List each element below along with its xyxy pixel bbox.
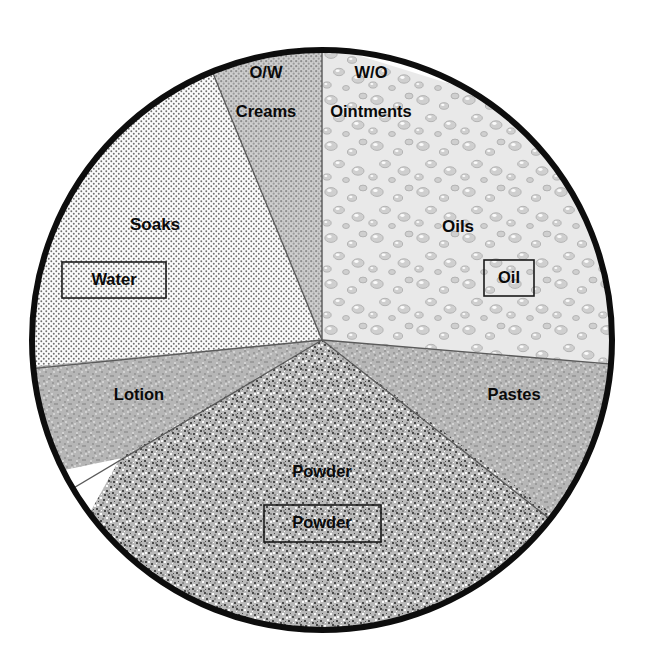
label-oils: Oils <box>442 217 474 236</box>
sector-fills <box>16 20 640 640</box>
powder-label-text: Powder <box>292 513 352 531</box>
label-powder: Powder <box>292 462 352 480</box>
wheel-svg: O/W Creams W/O Ointments Soaks Oils Loti… <box>0 0 646 669</box>
label-creams: Creams <box>236 102 297 120</box>
label-soaks: Soaks <box>130 215 180 234</box>
oil-label-text: Oil <box>498 268 520 286</box>
label-pastes: Pastes <box>487 385 540 403</box>
label-lotion: Lotion <box>114 385 164 403</box>
label-ointments: Ointments <box>330 102 412 120</box>
vehicle-wheel-diagram: O/W Creams W/O Ointments Soaks Oils Loti… <box>0 0 646 669</box>
water-label-text: Water <box>91 270 137 288</box>
label-wo: W/O <box>355 63 388 81</box>
label-ow: O/W <box>250 63 283 81</box>
